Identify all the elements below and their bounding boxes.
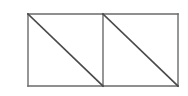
figure-canvas: [0, 0, 188, 96]
geometric-figure-svg: [0, 0, 188, 96]
